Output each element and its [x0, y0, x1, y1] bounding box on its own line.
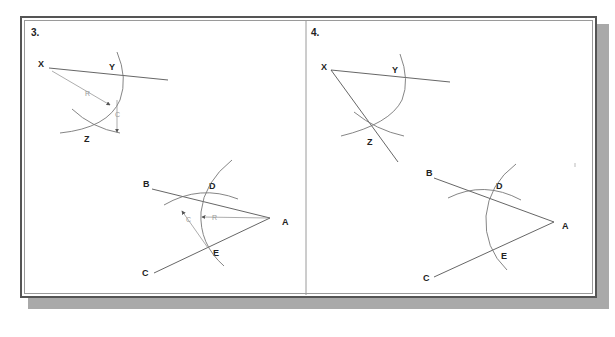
- point-x-label: X: [38, 59, 44, 69]
- point-e-label-4: E: [501, 251, 507, 261]
- point-z-label: Z: [84, 134, 90, 144]
- point-x-label-4: X: [321, 62, 327, 72]
- point-z-label-4: Z: [367, 137, 373, 147]
- point-c-label: C: [142, 268, 149, 278]
- line-ac-4: [434, 222, 554, 277]
- panel-3-number: 3.: [31, 27, 40, 38]
- point-e-label: E: [213, 248, 219, 258]
- point-c-label-4: C: [423, 273, 430, 283]
- point-d-label: D: [209, 181, 216, 191]
- point-a-label-4: A: [562, 221, 569, 231]
- construction-drawing: 3. X Y Z R C B C A D E R C: [0, 0, 615, 337]
- dimension-r-label: R: [85, 90, 90, 97]
- point-b-label: B: [143, 179, 150, 189]
- arc-chord-c-from-y-4: [354, 112, 404, 136]
- line-xy-4: [331, 70, 450, 82]
- point-y-label-4: Y: [392, 65, 398, 75]
- panel-3: 3. X Y Z R C B C A D E R C: [31, 27, 289, 278]
- panel-4-number: 4.: [311, 27, 320, 38]
- point-d-label-4: D: [496, 181, 503, 191]
- dimension-r-line: [52, 71, 110, 105]
- panel-4: 4. X Y Z B C A D E: [311, 27, 575, 283]
- line-ab: [152, 189, 270, 218]
- dimension-c-label: C: [115, 111, 120, 118]
- arc-through-d-4: [448, 189, 521, 200]
- dimension-c2-label: C: [186, 216, 191, 223]
- point-a-label: A: [282, 217, 289, 227]
- line-ab-4: [434, 178, 554, 222]
- dimension-r2-label: R: [212, 214, 217, 221]
- point-b-label-4: B: [426, 168, 433, 178]
- point-y-label: Y: [109, 62, 115, 72]
- line-ac: [154, 218, 270, 273]
